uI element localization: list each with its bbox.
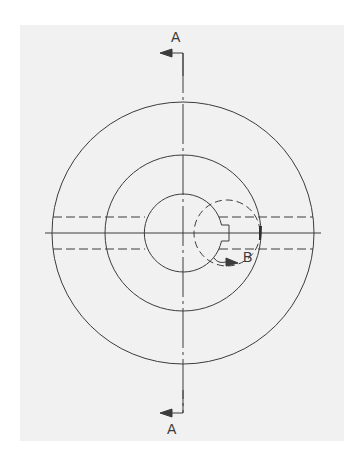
section-label-top: A xyxy=(171,29,181,45)
section-marker-top xyxy=(160,49,183,76)
technical-drawing: B A A xyxy=(0,0,357,462)
detail-label-b: B xyxy=(243,249,252,265)
section-marker-bottom xyxy=(160,390,183,417)
section-label-bottom: A xyxy=(167,421,177,437)
